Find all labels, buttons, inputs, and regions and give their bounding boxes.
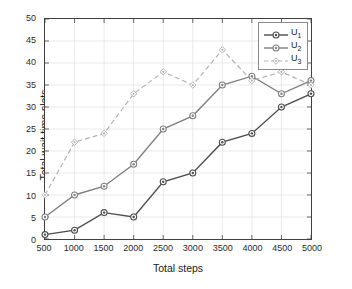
- y-tick-label: 20: [10, 146, 36, 156]
- data-point-marker: [249, 130, 255, 136]
- y-tick-label: 5: [10, 213, 36, 223]
- data-point-marker: [131, 214, 137, 220]
- legend-label: U1: [291, 27, 301, 39]
- x-tick-label: 5000: [292, 243, 332, 253]
- data-point-marker: [273, 57, 279, 63]
- data-point-marker: [160, 69, 166, 75]
- data-point-marker: [160, 126, 166, 132]
- data-point-marker: [190, 113, 196, 119]
- data-point-marker: [273, 45, 279, 51]
- data-point-marker: [278, 91, 284, 97]
- y-tick-label: 10: [10, 191, 36, 201]
- series-line-u2: [45, 76, 311, 217]
- legend-swatch-u3: [263, 53, 289, 65]
- legend-swatch-u2: [263, 40, 289, 52]
- data-point-marker: [190, 170, 196, 176]
- legend-item-u2[interactable]: U2: [263, 39, 303, 52]
- data-point-marker: [72, 192, 78, 198]
- data-point-marker: [42, 214, 48, 220]
- y-tick-label: 50: [10, 13, 36, 23]
- legend-label: U3: [291, 53, 301, 65]
- data-point-marker: [160, 179, 166, 185]
- legend-swatch-u1: [263, 27, 289, 39]
- data-point-marker: [273, 32, 279, 38]
- y-tick-label: 25: [10, 124, 36, 134]
- data-point-marker: [72, 227, 78, 233]
- y-tick-label: 35: [10, 80, 36, 90]
- legend-item-u1[interactable]: U1: [263, 26, 303, 39]
- data-point-marker: [71, 139, 77, 145]
- figure-canvas: 05101520253035404550 5001000150020002500…: [0, 0, 352, 289]
- data-point-marker: [308, 91, 314, 97]
- data-point-marker: [219, 139, 225, 145]
- x-axis-title: Total steps: [44, 262, 312, 274]
- data-point-marker: [219, 47, 225, 53]
- legend-label: U2: [291, 40, 301, 52]
- data-point-marker: [42, 232, 48, 238]
- data-point-marker: [278, 104, 284, 110]
- data-point-marker: [219, 82, 225, 88]
- y-tick-label: 15: [10, 168, 36, 178]
- legend[interactable]: U1U2U3: [258, 22, 308, 70]
- data-point-marker: [131, 161, 137, 167]
- y-tick-label: 30: [10, 102, 36, 112]
- y-tick-label: 40: [10, 57, 36, 67]
- data-point-marker: [101, 130, 107, 136]
- legend-item-u3[interactable]: U3: [263, 52, 303, 65]
- data-point-marker: [101, 210, 107, 216]
- data-point-marker: [190, 82, 196, 88]
- data-point-marker: [101, 183, 107, 189]
- y-tick-label: 45: [10, 35, 36, 45]
- series-line-u1: [45, 94, 311, 235]
